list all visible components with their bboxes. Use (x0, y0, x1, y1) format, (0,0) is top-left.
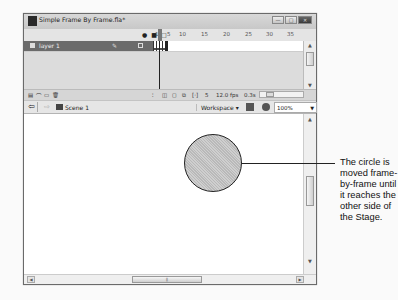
edit-bar: ⇦ ⇨ Scene 1 Workspace ▾ 100% ▼ (24, 100, 316, 114)
layer-icon (30, 43, 35, 48)
onion-markers-icon[interactable]: [·] (192, 92, 198, 98)
scroll-down-icon[interactable]: ▼ (308, 258, 312, 264)
pencil-icon: ✎ (112, 42, 117, 49)
delete-icon[interactable]: 🗑 (52, 92, 59, 98)
layer-row[interactable]: layer 1 ✎ (24, 41, 153, 51)
flash-app-icon (28, 16, 37, 26)
scroll-thumb[interactable]: ⫼ (132, 276, 202, 283)
close-button[interactable]: ✕ (298, 16, 312, 24)
new-layer-icon[interactable]: ▤ (28, 92, 33, 98)
ruler-tick: 10 (179, 31, 186, 37)
ruler-tick: 30 (266, 31, 273, 37)
edit-multiple-icon[interactable]: ⧉ (182, 92, 186, 99)
keyframe-selected[interactable] (165, 41, 168, 51)
edit-scene-icon[interactable] (246, 103, 254, 111)
onion-skin-icon[interactable]: ◫ (162, 92, 167, 98)
window-title: Simple Frame By Frame.fla* (39, 16, 125, 23)
onion-outline-icon[interactable]: ◻ (172, 92, 177, 98)
stage-horizontal-scrollbar[interactable]: ◀ ⫼ ▶ (24, 274, 316, 284)
eye-icon[interactable]: ● (142, 31, 147, 38)
forward-arrow-icon: ⇨ (44, 103, 50, 111)
scroll-up-icon[interactable]: ▲ (308, 42, 312, 48)
timeline-vertical-scrollbar[interactable]: ▲ ▼ (303, 41, 316, 89)
ruler-tick: 15 (201, 31, 208, 37)
scene-label[interactable]: Scene 1 (65, 104, 89, 111)
stage-vertical-scrollbar[interactable]: ▲ ▼ (303, 114, 316, 276)
zoom-value: 100% (277, 105, 293, 111)
scene-icon (56, 104, 63, 110)
center-frame-icon[interactable]: ⫶ (152, 92, 153, 99)
frame-track[interactable] (153, 41, 303, 51)
back-arrow-icon[interactable]: ⇦ (28, 102, 38, 112)
stage-canvas[interactable] (24, 114, 305, 276)
folder-icon[interactable]: ▭ (44, 92, 49, 98)
new-folder-icon[interactable]: ⌒ (36, 92, 42, 100)
edit-symbols-icon[interactable] (262, 103, 270, 111)
scroll-up-icon[interactable]: ▲ (308, 116, 312, 122)
current-frame: 5 (205, 92, 209, 98)
layer-name[interactable]: layer 1 (39, 42, 60, 49)
frame-rate[interactable]: 12.0 fps (216, 92, 238, 98)
callout-text: The circle is moved frame-by-frame until… (340, 157, 398, 223)
elapsed-time: 0.3s (244, 92, 256, 98)
scroll-thumb[interactable] (266, 92, 274, 97)
maximize-button[interactable]: □ (285, 16, 297, 24)
callout-line (242, 163, 335, 164)
ruler-tick: 20 (223, 31, 230, 37)
timeline-empty-area (24, 51, 303, 89)
chevron-down-icon[interactable]: ▼ (310, 105, 314, 111)
scroll-down-icon[interactable]: ▼ (308, 82, 312, 88)
flash-document-window: Simple Frame By Frame.fla* — □ ✕ ● ■ □ 1… (23, 13, 317, 285)
ruler-tick: 25 (245, 31, 252, 37)
ruler-tick: 35 (287, 31, 294, 37)
zoom-select[interactable]: 100% ▼ (274, 102, 317, 113)
playhead[interactable] (158, 29, 162, 41)
scroll-thumb[interactable] (306, 52, 314, 66)
scroll-right-icon[interactable]: ▶ (296, 276, 304, 283)
circle-shape[interactable] (184, 134, 242, 192)
ruler-tick: 5 (167, 31, 171, 37)
timeline-horizontal-scrollbar[interactable] (259, 91, 304, 98)
playhead-line (159, 41, 160, 89)
title-bar[interactable]: Simple Frame By Frame.fla* — □ ✕ (24, 14, 316, 29)
frame-ruler[interactable]: 1 5 10 15 20 25 30 35 (153, 29, 303, 41)
workspace-menu[interactable]: Workspace ▾ (196, 104, 239, 111)
scroll-left-icon[interactable]: ◀ (27, 276, 35, 283)
scroll-thumb[interactable] (306, 176, 314, 206)
outline-toggle[interactable] (138, 43, 143, 48)
minimize-button[interactable]: — (272, 16, 284, 24)
